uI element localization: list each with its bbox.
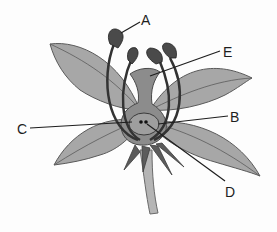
anther-2	[127, 48, 138, 64]
ovary	[129, 113, 159, 135]
flower-diagram: A E B C D	[0, 0, 277, 232]
leader-line-b	[158, 116, 228, 124]
anther-4	[163, 43, 177, 58]
leader-line-a	[121, 22, 140, 33]
ovule-1	[139, 120, 143, 124]
sepals	[124, 143, 184, 175]
label-e: E	[223, 44, 232, 60]
anther-1	[108, 29, 123, 48]
anther-3	[147, 48, 163, 64]
label-d: D	[225, 184, 235, 200]
label-c: C	[17, 121, 27, 137]
label-b: B	[230, 109, 239, 125]
ovule-2	[144, 120, 148, 124]
label-a: A	[141, 12, 151, 28]
